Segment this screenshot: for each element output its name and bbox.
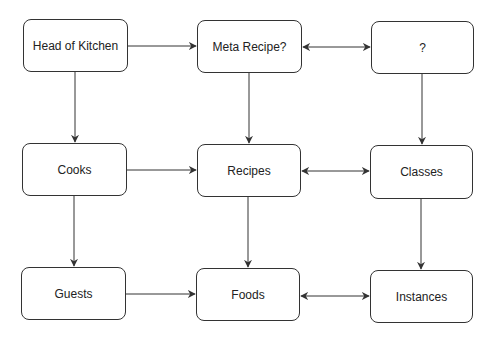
node-label: Classes xyxy=(400,165,443,179)
node-classes: Classes xyxy=(370,145,473,199)
node-label: Recipes xyxy=(227,164,270,178)
node-guests: Guests xyxy=(21,267,126,320)
node-unknown: ? xyxy=(371,21,474,74)
node-foods: Foods xyxy=(196,268,300,321)
node-label: ? xyxy=(419,41,426,55)
node-label: Foods xyxy=(231,288,264,302)
node-recipes: Recipes xyxy=(197,144,301,197)
node-label: Instances xyxy=(396,290,447,304)
node-cooks: Cooks xyxy=(22,143,127,196)
node-label: Head of Kitchen xyxy=(33,39,118,53)
node-head-of-kitchen: Head of Kitchen xyxy=(23,19,128,72)
node-label: Cooks xyxy=(57,163,91,177)
node-instances: Instances xyxy=(370,270,473,323)
node-label: Guests xyxy=(54,287,92,301)
node-label: Meta Recipe? xyxy=(212,40,286,54)
node-meta-recipe: Meta Recipe? xyxy=(197,20,302,73)
